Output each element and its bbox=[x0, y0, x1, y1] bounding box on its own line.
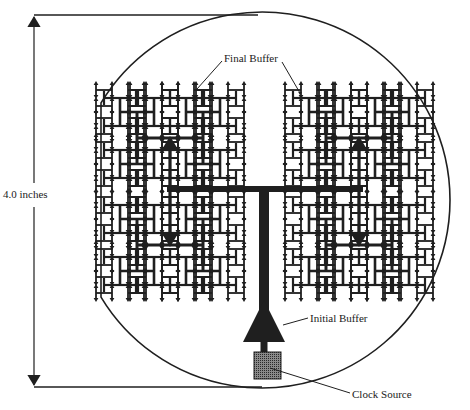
final-buffer-arrow-icon bbox=[94, 125, 99, 129]
final-buffer-arrow-icon bbox=[242, 284, 247, 288]
final-buffer-label: Final Buffer bbox=[224, 53, 278, 64]
final-buffer-arrow-icon bbox=[349, 81, 354, 85]
dimension-arrowhead-down-icon bbox=[27, 375, 40, 386]
final-buffer-arrow-icon bbox=[431, 256, 436, 260]
final-buffer-arrow-icon bbox=[242, 125, 247, 129]
final-buffer-arrow-icon bbox=[365, 188, 370, 192]
final-buffer-arrow-icon bbox=[431, 97, 436, 101]
final-buffer-arrow-icon bbox=[94, 284, 99, 288]
final-buffer-arrow-icon bbox=[283, 97, 288, 101]
final-buffer-arrow-icon bbox=[299, 298, 304, 302]
final-buffer-arrow-icon bbox=[349, 298, 354, 302]
final-buffer-arrow-icon bbox=[176, 81, 181, 85]
final-buffer-arrow-icon bbox=[242, 232, 247, 236]
final-buffer-arrow-icon bbox=[94, 81, 99, 85]
final-buffer-arrow-icon bbox=[242, 149, 247, 153]
final-buffer-arrow-icon bbox=[415, 298, 420, 302]
final-buffer-arrow-icon bbox=[283, 149, 288, 153]
final-buffer-arrow-icon bbox=[415, 188, 420, 192]
final-buffer-arrow-icon bbox=[431, 284, 436, 288]
final-buffer-arrow-icon bbox=[94, 177, 99, 181]
final-buffer-arrow-icon bbox=[242, 97, 247, 101]
initial-buffer-icon bbox=[243, 300, 285, 342]
final-buffer-arrow-icon bbox=[283, 232, 288, 236]
final-buffer-arrow-icon bbox=[415, 81, 420, 85]
final-buffer-arrow-icon bbox=[431, 81, 436, 85]
final-buffer-arrow-icon bbox=[242, 177, 247, 181]
final-buffer-arrow-icon bbox=[94, 232, 99, 236]
final-buffer-arrow-icon bbox=[283, 298, 288, 302]
final-buffer-arrow-icon bbox=[94, 256, 99, 260]
final-buffer-arrow-icon bbox=[176, 298, 181, 302]
dimension-arrowhead-up-icon bbox=[27, 16, 40, 27]
initial-buffer-leader bbox=[283, 318, 308, 325]
final-buffer-arrow-icon bbox=[431, 204, 436, 208]
final-buffer-arrow-icon bbox=[160, 81, 165, 85]
final-buffer-arrow-icon bbox=[431, 232, 436, 236]
final-buffer-arrow-icon bbox=[242, 256, 247, 260]
final-buffer-arrow-icon bbox=[110, 298, 115, 302]
final-buffer-arrow-icon bbox=[226, 298, 231, 302]
final-buffer-arrow-icon bbox=[226, 81, 231, 85]
final-buffer-arrow-icon bbox=[283, 125, 288, 129]
final-buffer-arrow-icon bbox=[283, 177, 288, 181]
final-buffer-arrow-icon bbox=[365, 298, 370, 302]
htree-diagram: 4.0 inches Final Buffer Initial Buffer C… bbox=[0, 0, 470, 410]
final-buffer-arrow-icon bbox=[242, 298, 247, 302]
final-buffer-arrow-icon bbox=[283, 204, 288, 208]
final-buffer-arrow-icon bbox=[431, 149, 436, 153]
final-buffer-arrow-icon bbox=[365, 81, 370, 85]
final-buffer-arrow-icon bbox=[242, 81, 247, 85]
final-buffer-arrow-icon bbox=[283, 81, 288, 85]
final-buffer-arrow-icon bbox=[94, 298, 99, 302]
initial-buffer-label: Initial Buffer bbox=[310, 313, 368, 324]
clock-source-label: Clock Source bbox=[352, 389, 412, 400]
final-buffer-arrow-icon bbox=[299, 81, 304, 85]
final-buffer-arrow-icon bbox=[94, 204, 99, 208]
final-buffer-arrow-icon bbox=[110, 188, 115, 192]
final-buffer-arrow-icon bbox=[160, 298, 165, 302]
final-buffer-arrow-icon bbox=[431, 298, 436, 302]
final-buffer-arrow-icon bbox=[283, 256, 288, 260]
final-buffer-arrow-icon bbox=[94, 149, 99, 153]
dimension-label: 4.0 inches bbox=[3, 189, 48, 200]
final-buffer-arrow-icon bbox=[110, 81, 115, 85]
clock-source-box bbox=[254, 352, 281, 379]
final-buffer-arrow-icon bbox=[431, 177, 436, 181]
final-buffer-arrow-icon bbox=[94, 97, 99, 101]
final-buffer-arrow-icon bbox=[242, 204, 247, 208]
final-buffer-arrow-icon bbox=[94, 188, 99, 192]
final-buffer-arrow-icon bbox=[283, 284, 288, 288]
final-buffer-arrow-icon bbox=[431, 188, 436, 192]
final-buffer-arrow-icon bbox=[160, 188, 165, 192]
